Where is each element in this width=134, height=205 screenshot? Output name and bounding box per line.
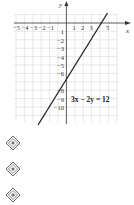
svg-text:−2: −2 xyxy=(57,37,64,44)
y-axis-arrow xyxy=(64,1,68,6)
svg-text:−2: −2 xyxy=(39,24,46,31)
svg-text:−3: −3 xyxy=(30,24,37,31)
svg-text:3: 3 xyxy=(90,24,93,31)
axes xyxy=(14,4,128,124)
svg-text:1: 1 xyxy=(61,28,64,35)
spiral-diamond-icon xyxy=(5,187,21,203)
svg-text:−5: −5 xyxy=(57,62,64,69)
svg-text:−10: −10 xyxy=(54,104,64,111)
x-axis-label: x xyxy=(125,27,130,35)
spiral-diamond-icon xyxy=(5,135,21,151)
svg-text:−6: −6 xyxy=(57,70,65,77)
svg-text:5: 5 xyxy=(106,24,109,31)
spiral-diamond-icon xyxy=(5,161,21,177)
y-axis-label: y xyxy=(58,1,63,9)
svg-text:1: 1 xyxy=(73,24,76,31)
line-graph: y x −5−4−3 −2−1 123 5 1−2−3 −4−5−6 −8−9−… xyxy=(0,0,134,130)
svg-text:−5: −5 xyxy=(13,24,20,31)
svg-text:−1: −1 xyxy=(47,24,54,31)
x-axis-arrow xyxy=(125,21,131,25)
svg-text:−3: −3 xyxy=(57,45,64,52)
svg-text:−9: −9 xyxy=(57,96,64,103)
svg-text:−4: −4 xyxy=(22,24,30,31)
equation-label: 3x − 2y = 12 xyxy=(71,95,110,104)
svg-text:2: 2 xyxy=(81,24,84,31)
svg-text:−4: −4 xyxy=(57,54,65,61)
